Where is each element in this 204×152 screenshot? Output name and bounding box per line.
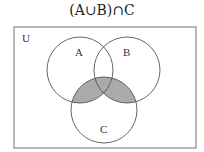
set-c-label: C	[100, 123, 107, 135]
set-a-label: A	[75, 46, 83, 58]
venn-diagram: U A B C	[0, 0, 204, 152]
universe-label: U	[22, 32, 30, 44]
set-b-label: B	[123, 46, 130, 58]
